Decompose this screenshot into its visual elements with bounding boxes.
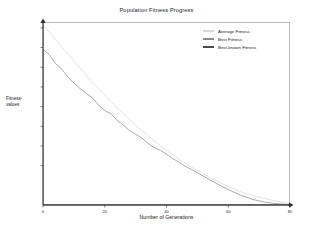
legend-item-label: Best-known Fitness [218, 45, 256, 50]
x-tick-label: 80 [278, 209, 302, 214]
legend-line-icon [203, 38, 214, 39]
x-axis-label: Number of Generations [43, 214, 290, 220]
legend-item[interactable]: Average Fitness [203, 27, 291, 35]
legend-item[interactable]: Best Fitness [203, 35, 291, 43]
legend-item-label: Average Fitness [218, 29, 250, 34]
chart-legend: Average FitnessBest FitnessBest-known Fi… [203, 27, 291, 51]
y-axis-label-line2: values [6, 102, 40, 108]
x-tick-label: 20 [93, 209, 117, 214]
legend-line-icon [203, 46, 214, 47]
legend-item[interactable]: Best-known Fitness [203, 43, 291, 51]
x-tick-label: 0 [31, 209, 55, 214]
x-tick-label: 60 [216, 209, 240, 214]
chart-container: Population Fitness Progress 100001500020… [0, 0, 313, 233]
y-axis-label: Fitness- values [6, 96, 40, 108]
legend-line-icon [203, 30, 214, 31]
legend-item-label: Best Fitness [218, 37, 242, 42]
x-tick-label: 40 [155, 209, 179, 214]
